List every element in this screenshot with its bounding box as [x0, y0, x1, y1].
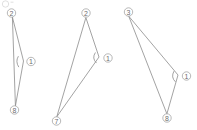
triangle-2: 2 7 1: [52, 9, 112, 125]
figure-canvas: 2 8 1 2 7: [0, 0, 197, 130]
triangle-2-top-label-text: 2: [84, 10, 88, 17]
triangle-1-vertex-label-bottom: 8: [10, 106, 18, 114]
triangle-3-angle-label: 1: [182, 72, 190, 80]
triangle-1-angle-label: 1: [27, 57, 35, 65]
corner-smudge-icon: [2, 1, 13, 7]
triangle-3-top-label-text: 3: [127, 9, 131, 16]
triangle-1-angle-arc: [17, 57, 19, 67]
triangle-1-bottom-label-text: 8: [13, 107, 17, 114]
triangles-diagram: 2 8 1 2 7: [0, 0, 197, 130]
triangle-2-angle-label: 1: [104, 54, 112, 62]
triangle-2-vertex-label-top: 2: [82, 9, 90, 17]
triangle-2-edges: [57, 18, 99, 117]
triangle-3-angle-arc: [172, 72, 175, 82]
triangle-3-angle-label-text: 1: [185, 73, 189, 80]
triangle-3: 3 8 1: [124, 8, 190, 122]
triangle-3-vertex-label-bottom: 8: [163, 114, 171, 122]
triangle-3-edges: [129, 17, 178, 114]
triangle-2-angle-label-text: 1: [106, 55, 110, 62]
triangle-2-vertex-label-bottom: 7: [52, 117, 60, 125]
triangle-1-vertex-label-top: 2: [7, 9, 15, 17]
triangle-1-top-label-text: 2: [10, 10, 14, 17]
triangle-3-vertex-label-top: 3: [124, 8, 132, 16]
triangle-2-bottom-label-text: 7: [55, 118, 59, 125]
triangle-1-edges: [13, 18, 24, 106]
triangle-3-bottom-label-text: 8: [165, 115, 169, 122]
triangle-1: 2 8 1: [7, 9, 35, 114]
triangle-1-angle-label-text: 1: [29, 58, 33, 65]
